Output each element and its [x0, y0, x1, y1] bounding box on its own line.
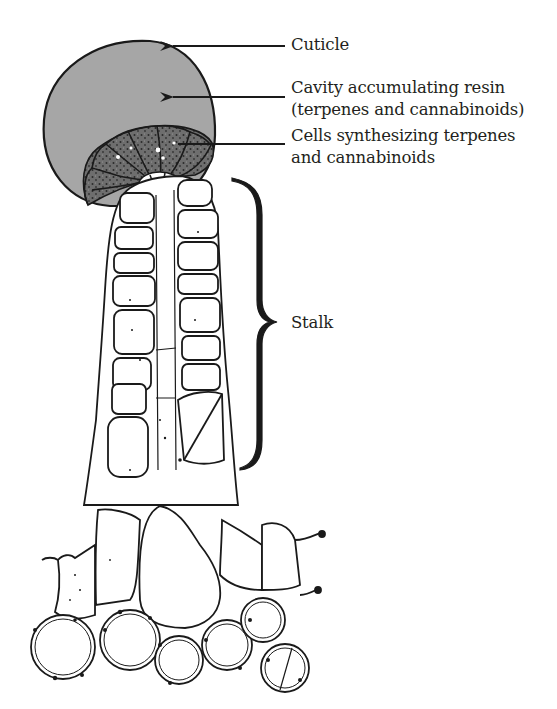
label-cuticle: Cuticle — [291, 34, 349, 56]
label-cuticle-text: Cuticle — [291, 35, 349, 54]
label-cells-line2: and cannabinoids — [291, 147, 515, 169]
label-cavity: Cavity accumulating resin (terpenes and … — [291, 77, 524, 121]
label-cavity-line2: (terpenes and cannabinoids) — [291, 99, 524, 121]
label-stalk-text: Stalk — [291, 313, 333, 332]
trichome-diagram: Cuticle Cavity accumulating resin (terpe… — [0, 0, 557, 709]
label-cells: Cells synthesizing terpenes and cannabin… — [291, 125, 515, 169]
label-cavity-line1: Cavity accumulating resin — [291, 77, 524, 99]
label-stalk: Stalk — [291, 312, 333, 334]
stalk-cells — [84, 176, 238, 505]
label-cells-line1: Cells synthesizing terpenes — [291, 125, 515, 147]
stalk-brace-icon — [232, 178, 277, 470]
